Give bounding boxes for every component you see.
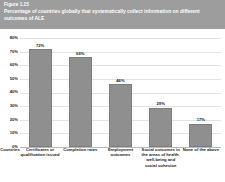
figure-header-banner: Figure 1.15 Percentage of countries glob… [0,0,225,29]
figure-card: Figure 1.15 Percentage of countries glob… [0,0,225,182]
y-axis-tick-label: 60% [3,63,18,67]
x-axis-category-label: Certificates or qualification issued [20,147,60,157]
x-axis-origin-label: Countries [0,147,20,152]
bar-slot: 72% [20,49,60,147]
bar-slot: 17% [181,124,221,147]
x-axis-category-label: None of the above [181,147,221,152]
bar[interactable] [29,49,52,147]
figure-number: Figure 1.15 [4,2,221,8]
bar[interactable] [149,108,172,148]
x-axis-category-label: Social outcomes in the areas of health, … [141,147,181,168]
bar-value-label: 72% [20,44,60,49]
bar[interactable] [189,124,212,147]
bar-value-label: 66% [60,52,100,57]
bar-slot: 29% [141,108,181,148]
y-axis-tick-label: 50% [3,77,18,81]
figure-title: Percentage of countries globally that sy… [4,9,204,22]
bar-slot: 46% [100,84,140,147]
bar-value-label: 29% [141,102,181,107]
bar[interactable] [109,84,132,147]
x-axis-category-label: Completion rates [60,147,100,152]
bar[interactable] [69,57,92,147]
y-axis-tick-label: 40% [3,90,18,94]
y-axis-tick-label: 10% [3,131,18,135]
y-axis-tick-label: 30% [3,104,18,108]
bar-slot: 66% [60,57,100,147]
chart-plot-area: 80%70%60%50%40%30%20%10%0% 72%66%46%29%1… [0,29,225,182]
y-axis-tick-label: 80% [3,36,18,40]
bar-value-label: 17% [181,118,221,123]
x-axis-category-label: Employment outcomes [100,147,140,157]
y-axis-tick-label: 20% [3,118,18,122]
y-axis-tick-label: 70% [3,50,18,54]
x-axis-labels: Countries Certificates or qualification … [0,146,225,182]
bar-value-label: 46% [100,79,140,84]
